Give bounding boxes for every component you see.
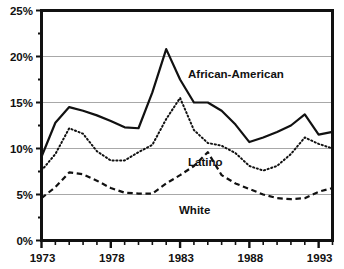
y-axis-label-20: 20% (10, 51, 33, 63)
series-annotation-white: White (179, 204, 210, 216)
x-axis-label-1978: 1978 (99, 252, 125, 264)
y-axis-label-15: 15% (10, 97, 33, 109)
unemployment-rate-line-chart: 25%20%15%10%5%0% 19731978198319881993 Af… (0, 0, 344, 269)
y-axis-label-0: 0% (16, 235, 33, 247)
series-annotation-latino: Latino (188, 156, 223, 168)
x-axis-label-1993: 1993 (307, 252, 333, 264)
chart-figure: 25%20%15%10%5%0% 19731978198319881993 Af… (0, 0, 344, 269)
y-axis-label-25: 25% (10, 5, 33, 17)
y-axis-label-5: 5% (16, 189, 33, 201)
x-axis-label-1988: 1988 (238, 252, 264, 264)
x-axis-label-1973: 1973 (30, 252, 56, 264)
series-annotation-african-american: African-American (188, 68, 284, 80)
y-axis-label-10: 10% (10, 143, 33, 155)
x-axis-label-1983: 1983 (168, 252, 194, 264)
